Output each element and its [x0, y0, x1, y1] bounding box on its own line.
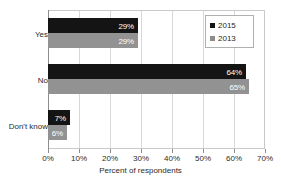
- category-label-dont-know: Don't know: [9, 122, 48, 131]
- x-tick: [234, 149, 235, 153]
- bar-chart: Yes 29% 29% No 64% 65% Don't know 7% 6% …: [0, 0, 281, 184]
- x-tick: [172, 149, 173, 153]
- legend-swatch-icon: [210, 36, 215, 41]
- bar-dont-know-2015: 7%: [48, 110, 70, 125]
- bar-yes-2015: 29%: [48, 18, 138, 33]
- x-axis-title: Percent of respondents: [0, 166, 281, 176]
- legend-label: 2015: [218, 21, 236, 30]
- x-tick: [110, 149, 111, 153]
- category-label-no: No: [38, 76, 48, 85]
- x-tick: [79, 149, 80, 153]
- legend: 2015 2013: [205, 15, 254, 48]
- bar-dont-know-2013: 6%: [48, 125, 67, 140]
- x-tick: [48, 149, 49, 153]
- bar-no-2013: 65%: [48, 79, 249, 94]
- category-label-yes: Yes: [35, 30, 48, 39]
- x-tick: [265, 149, 266, 153]
- legend-item-2015: 2015: [210, 21, 236, 30]
- legend-label: 2013: [218, 34, 236, 43]
- bar-value-label: 29%: [119, 36, 134, 45]
- bar-value-label: 6%: [52, 128, 63, 137]
- legend-swatch-icon: [210, 23, 215, 28]
- legend-item-2013: 2013: [210, 34, 236, 43]
- bar-value-label: 7%: [55, 113, 66, 122]
- x-tick: [141, 149, 142, 153]
- x-tick-label: 70%: [245, 154, 281, 163]
- bar-value-label: 65%: [230, 82, 245, 91]
- bar-yes-2013: 29%: [48, 33, 138, 48]
- x-tick: [203, 149, 204, 153]
- bar-value-label: 29%: [119, 21, 134, 30]
- bar-value-label: 64%: [227, 67, 242, 76]
- bar-no-2015: 64%: [48, 64, 246, 79]
